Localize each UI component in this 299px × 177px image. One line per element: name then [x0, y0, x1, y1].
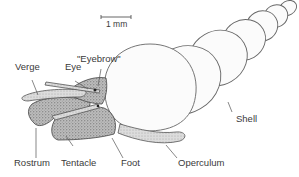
label-shell: Shell — [236, 113, 257, 124]
label-rostrum: Rostrum — [14, 157, 50, 168]
label-operculum: Operculum — [178, 157, 225, 168]
label-eyebrow: "Eyebrow" — [77, 53, 121, 64]
snail-anatomy-figure: 1 mm — [0, 0, 299, 177]
scale-bar-label: 1 mm — [106, 19, 127, 29]
scale-bar: 1 mm — [101, 15, 131, 29]
shell — [104, 0, 299, 131]
label-foot: Foot — [121, 157, 140, 168]
label-tentacle: Tentacle — [61, 157, 96, 168]
label-verge: Verge — [15, 61, 40, 72]
eye — [94, 89, 97, 92]
tentacle-eye-lower — [97, 105, 100, 108]
